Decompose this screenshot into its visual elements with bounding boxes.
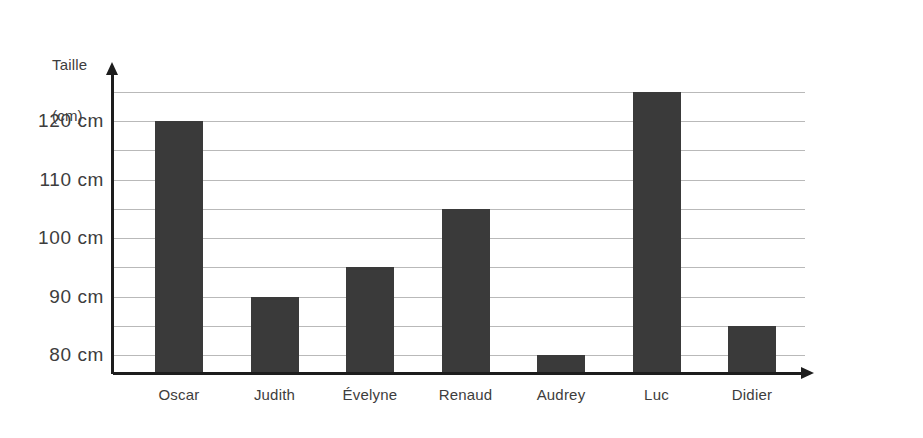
gridline xyxy=(113,180,805,181)
bar xyxy=(251,297,299,373)
bar xyxy=(346,267,394,373)
bar xyxy=(442,209,490,373)
bar-chart: Taille (cm) 120 cm110 cm100 cm90 cm80 cm… xyxy=(0,0,923,438)
y-axis-arrow-icon xyxy=(106,62,118,75)
bar xyxy=(537,355,585,373)
gridline xyxy=(113,121,805,122)
x-axis-category-label: Didier xyxy=(692,386,812,403)
gridline xyxy=(113,150,805,151)
y-axis-tick-labels: 120 cm110 cm100 cm90 cm80 cm xyxy=(0,0,104,438)
y-axis-tick-label: 110 cm xyxy=(40,170,105,189)
plot-area xyxy=(113,92,805,373)
gridline xyxy=(113,92,805,93)
x-axis-arrow-icon xyxy=(801,367,814,379)
bar xyxy=(728,326,776,373)
x-axis-line xyxy=(113,372,803,375)
bar xyxy=(633,92,681,373)
bar xyxy=(155,121,203,373)
y-axis-tick-label: 100 cm xyxy=(38,228,104,247)
y-axis-tick-label: 120 cm xyxy=(38,111,104,130)
y-axis-tick-label: 90 cm xyxy=(49,287,104,306)
y-axis-line xyxy=(111,72,114,374)
y-axis-tick-label: 80 cm xyxy=(49,345,104,364)
